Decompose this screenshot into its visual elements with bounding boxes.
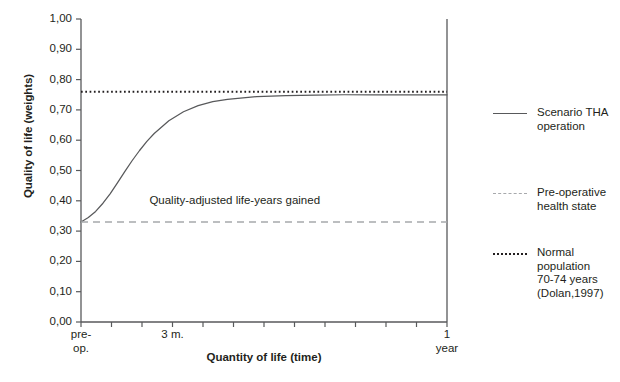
- legend-swatch-dashed: [493, 193, 527, 194]
- x-axis-tick-label: 3 m.: [133, 328, 213, 342]
- chart-legend: Scenario THA operationPre-operative heal…: [493, 0, 620, 382]
- qaly-gained-annotation: Quality-adjusted life-years gained: [125, 194, 345, 206]
- legend-swatch-dotted: [493, 253, 527, 255]
- chart-figure: Quality of life (weights) 1,000,900,800,…: [0, 0, 620, 382]
- legend-label: Scenario THA operation: [537, 106, 620, 133]
- legend-label: Normal population 70-74 years (Dolan,199…: [537, 246, 620, 300]
- x-axis-title: Quantity of life (time): [81, 351, 447, 363]
- legend-swatch-solid: [493, 113, 527, 114]
- legend-label: Pre-operative health state: [537, 186, 620, 213]
